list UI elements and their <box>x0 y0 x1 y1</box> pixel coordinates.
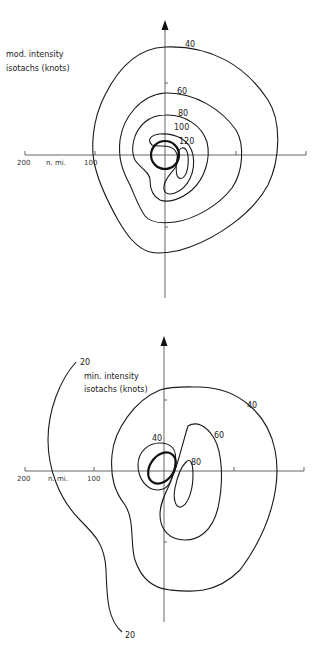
bottom-panel: 20 min. intensity isotachs (knots) 200 n… <box>17 336 304 640</box>
top-title-line1: mod. intensity <box>6 50 64 59</box>
bottom-label-40-inner: 40 <box>152 434 162 443</box>
north-arrow-icon <box>161 336 168 346</box>
top-axis-units: n. mi. <box>46 159 66 167</box>
bottom-isotach-40-outer <box>112 387 277 591</box>
bottom-axis-units: n. mi. <box>48 475 68 483</box>
top-axis-label-200: 200 <box>17 159 30 167</box>
isotach-diagram: mod. intensity isotachs (knots) 200 n. m… <box>0 0 319 657</box>
bottom-isotach-20 <box>48 362 122 632</box>
bottom-isotach-60 <box>160 424 221 540</box>
top-label-80: 80 <box>178 109 188 118</box>
top-label-40: 40 <box>185 40 195 49</box>
bottom-isotach-80 <box>174 461 193 508</box>
bottom-label-60: 60 <box>214 431 224 440</box>
bottom-label-40-outer: 40 <box>247 401 257 410</box>
top-title-line2: isotachs (knots) <box>6 64 70 73</box>
north-arrow-icon <box>162 20 169 30</box>
bottom-label-80: 80 <box>191 458 201 467</box>
bottom-axis-label-200: 200 <box>17 475 30 483</box>
top-label-120: 120 <box>179 137 194 146</box>
top-axis-label-100: 100 <box>84 159 97 167</box>
bottom-label-20-bottom: 20 <box>125 631 135 640</box>
top-panel: mod. intensity isotachs (knots) 200 n. m… <box>6 20 306 298</box>
top-label-100: 100 <box>174 123 189 132</box>
bottom-axis-label-100: 100 <box>87 475 100 483</box>
top-isotach-40 <box>93 47 278 253</box>
bottom-title-line2: isotachs (knots) <box>84 385 148 394</box>
bottom-label-20-top: 20 <box>80 358 90 367</box>
bottom-title-line1: min. intensity <box>84 372 139 381</box>
top-label-60: 60 <box>177 87 187 96</box>
top-isotach-80 <box>133 115 209 201</box>
